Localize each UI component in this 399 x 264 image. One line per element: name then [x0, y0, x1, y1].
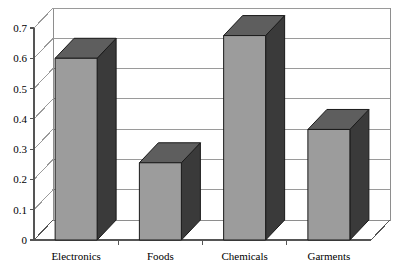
bar-chart-3d: 0.70.60.50.40.30.20.10ElectronicsFoodsCh…: [0, 0, 399, 264]
bar-foods[interactable]: [139, 143, 200, 240]
x-category-label-3: Garments: [307, 250, 350, 262]
y-tick-label-3: 0.4: [13, 113, 27, 125]
y-tick-label-1: 0.6: [13, 52, 27, 64]
bar-side-chemicals: [266, 16, 285, 240]
y-tick-label-4: 0.3: [13, 143, 27, 155]
chart-container: 0.70.60.50.40.30.20.10ElectronicsFoodsCh…: [0, 0, 399, 264]
y-tick-label-7: 0: [22, 234, 28, 246]
bar-side-garments: [350, 109, 369, 240]
y-tick-label-5: 0.2: [13, 173, 27, 185]
x-category-label-0: Electronics: [51, 250, 100, 262]
bar-electronics[interactable]: [55, 38, 116, 240]
x-category-label-1: Foods: [147, 250, 174, 262]
bar-chemicals[interactable]: [224, 16, 285, 240]
bar-front-foods: [139, 163, 181, 240]
bar-front-garments: [308, 129, 350, 240]
y-tick-label-0: 0.7: [13, 22, 27, 34]
plot-left-wall: [34, 8, 53, 240]
bar-garments[interactable]: [308, 109, 369, 240]
bar-front-chemicals: [224, 36, 266, 240]
y-tick-label-6: 0.1: [13, 204, 27, 216]
y-tick-label-2: 0.5: [13, 83, 27, 95]
bar-side-electronics: [97, 38, 116, 240]
bar-front-electronics: [55, 58, 97, 240]
x-category-label-2: Chemicals: [221, 250, 267, 262]
